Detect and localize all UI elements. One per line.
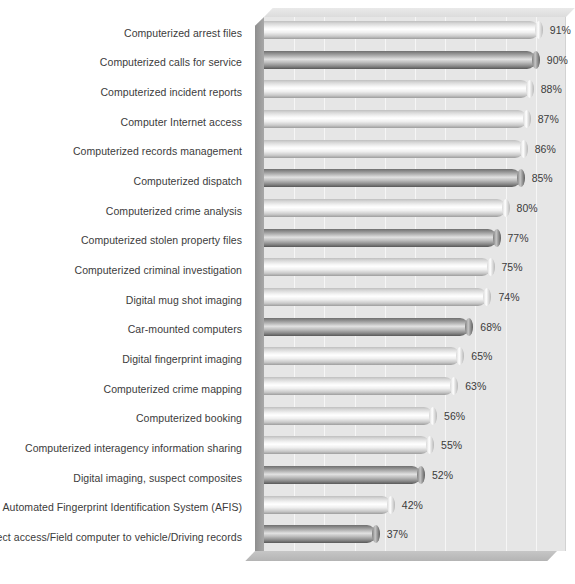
bar-cylinder[interactable]	[264, 169, 521, 187]
category-label-column: Computerized arrest filesComputerized ca…	[0, 18, 248, 558]
bar-cap	[517, 169, 525, 187]
bar-cylinder[interactable]	[264, 258, 491, 276]
bar-row: 87%	[264, 106, 566, 135]
bar-cylinder[interactable]	[264, 51, 536, 69]
bar-value-label: 52%	[432, 466, 453, 484]
category-label: Automated Fingerprint Identification Sys…	[0, 493, 248, 522]
bar-value-label: 55%	[441, 436, 462, 454]
bar-row: 65%	[264, 343, 566, 372]
category-label-text: Computerized arrest files	[124, 27, 242, 39]
bar-row: 85%	[264, 165, 566, 194]
bar-cylinder[interactable]	[264, 377, 454, 395]
bar-cap	[523, 110, 531, 128]
bar-row: 86%	[264, 136, 566, 165]
bar-cap	[532, 51, 540, 69]
bar-value-label: 75%	[502, 258, 523, 276]
plot-left-face	[255, 17, 264, 560]
bar-value-label: 37%	[387, 525, 408, 543]
category-label-text: Computerized stolen property files	[81, 234, 242, 246]
bar-cylinder[interactable]	[264, 466, 421, 484]
category-label: Computerized crime mapping	[0, 374, 248, 403]
bar-row: 80%	[264, 195, 566, 224]
bar-cylinder[interactable]	[264, 318, 469, 336]
category-label: Computerized crime analysis	[0, 196, 248, 225]
bar-cap	[450, 377, 458, 395]
bar-value-label: 63%	[465, 377, 486, 395]
category-label-text: Digital mug shot imaging	[126, 294, 242, 306]
category-label-text: Direct access/Field computer to vehicle/…	[0, 531, 242, 543]
bar-value-label: 87%	[538, 110, 559, 128]
bar-cylinder[interactable]	[264, 525, 376, 543]
bar-row: 52%	[264, 462, 566, 491]
bar-cylinder[interactable]	[264, 347, 460, 365]
plot-top-face	[264, 8, 575, 17]
bar-cap	[520, 140, 528, 158]
bar-cap	[387, 496, 395, 514]
bar-cap	[417, 466, 425, 484]
category-label-text: Computer Internet access	[121, 116, 242, 128]
bar-value-label: 86%	[535, 140, 556, 158]
bar-row: 68%	[264, 314, 566, 343]
bar-cylinder[interactable]	[264, 80, 530, 98]
category-label-text: Automated Fingerprint Identification Sys…	[3, 501, 242, 513]
bar-cap	[487, 258, 495, 276]
bar-series: 91%90%88%87%86%85%80%77%75%74%68%65%63%5…	[264, 17, 566, 551]
bar-value-label: 77%	[508, 229, 529, 247]
bar-row: 91%	[264, 17, 566, 46]
category-label-text: Digital imaging, suspect composites	[73, 472, 242, 484]
bar-cap	[535, 21, 543, 39]
category-label-text: Computerized dispatch	[134, 175, 242, 187]
bar-value-label: 88%	[541, 80, 562, 98]
bar-row: 88%	[264, 76, 566, 105]
plot-area: 91%90%88%87%86%85%80%77%75%74%68%65%63%5…	[255, 8, 566, 568]
category-label: Computerized stolen property files	[0, 226, 248, 255]
bar-cylinder[interactable]	[264, 496, 391, 514]
bar-cap	[526, 80, 534, 98]
bar-row: 77%	[264, 225, 566, 254]
bar-cap	[456, 347, 464, 365]
bar-value-label: 91%	[550, 21, 571, 39]
category-label: Computer Internet access	[0, 107, 248, 136]
bar-value-label: 42%	[402, 496, 423, 514]
category-label: Computerized calls for service	[0, 48, 248, 77]
category-label: Computerized booking	[0, 404, 248, 433]
category-label-text: Computerized records management	[73, 145, 242, 157]
category-label-text: Computerized booking	[136, 412, 242, 424]
category-label: Digital imaging, suspect composites	[0, 463, 248, 492]
category-label: Computerized records management	[0, 137, 248, 166]
category-label: Car-mounted computers	[0, 315, 248, 344]
bar-cylinder[interactable]	[264, 407, 433, 425]
bar-cylinder[interactable]	[264, 199, 506, 217]
bar-cap	[493, 229, 501, 247]
category-label: Computerized dispatch	[0, 166, 248, 195]
category-label: Computerized interagency information sha…	[0, 433, 248, 462]
category-label: Computerized incident reports	[0, 77, 248, 106]
bar-cylinder[interactable]	[264, 140, 524, 158]
category-label: Direct access/Field computer to vehicle/…	[0, 522, 248, 551]
bar-cylinder[interactable]	[264, 436, 430, 454]
category-label-text: Computerized crime analysis	[106, 205, 242, 217]
bar-cylinder[interactable]	[264, 288, 487, 306]
bar-row: 74%	[264, 284, 566, 313]
bar-row: 90%	[264, 47, 566, 76]
bar-value-label: 68%	[480, 318, 501, 336]
category-label: Computerized arrest files	[0, 18, 248, 47]
category-label-text: Computerized incident reports	[100, 86, 242, 98]
plot-bottom-face	[245, 551, 557, 561]
category-label: Digital fingerprint imaging	[0, 344, 248, 373]
category-label-text: Digital fingerprint imaging	[122, 353, 242, 365]
bar-row: 37%	[264, 521, 566, 550]
bar-row: 63%	[264, 373, 566, 402]
bar-cylinder[interactable]	[264, 110, 527, 128]
category-label-text: Computerized crime mapping	[104, 383, 242, 395]
category-label-text: Computerized interagency information sha…	[25, 442, 242, 454]
category-label-text: Car-mounted computers	[128, 323, 242, 335]
bar-cylinder[interactable]	[264, 229, 497, 247]
category-label-text: Computerized calls for service	[100, 56, 242, 68]
bar-cylinder[interactable]	[264, 21, 539, 39]
bar-value-label: 85%	[532, 169, 553, 187]
bar-row: 56%	[264, 403, 566, 432]
bar-value-label: 65%	[471, 347, 492, 365]
bar-cap	[429, 407, 437, 425]
